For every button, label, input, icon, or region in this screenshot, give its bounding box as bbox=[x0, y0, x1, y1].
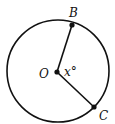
label-o: O bbox=[39, 67, 49, 81]
label-b: B bbox=[68, 6, 78, 20]
point-o bbox=[54, 69, 59, 74]
point-b bbox=[69, 22, 74, 27]
circle-diagram: B O x° C bbox=[0, 0, 115, 124]
point-c bbox=[91, 104, 96, 109]
label-c: C bbox=[99, 109, 108, 123]
label-angle: x° bbox=[64, 65, 77, 79]
